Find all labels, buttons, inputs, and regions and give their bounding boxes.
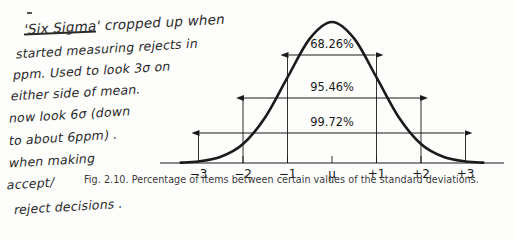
handwriting-underline bbox=[24, 30, 96, 35]
figure-caption: Fig. 2.10. Percentage of items between c… bbox=[84, 174, 514, 185]
handwriting-line-4: either side of mean. bbox=[10, 82, 142, 104]
handwriting-line-9: reject decisions . bbox=[13, 196, 124, 218]
handwriting-line-5: now look 6σ (down bbox=[8, 103, 132, 126]
ink-speck bbox=[27, 12, 32, 14]
handwriting-line-7: when making bbox=[8, 151, 97, 171]
handwriting-line-8: accept/ bbox=[6, 174, 56, 192]
percentage-label: 95.46% bbox=[310, 80, 354, 94]
handwriting-line-6: to about 6ppm) . bbox=[8, 127, 119, 149]
scanned-page: 'Six Sigma' cropped up when started meas… bbox=[0, 0, 514, 241]
handwriting-line-3: ppm. Used to look 3σ on bbox=[12, 59, 172, 83]
percentage-label: 99.72% bbox=[310, 115, 354, 129]
percentage-label: 68.26% bbox=[310, 37, 354, 51]
